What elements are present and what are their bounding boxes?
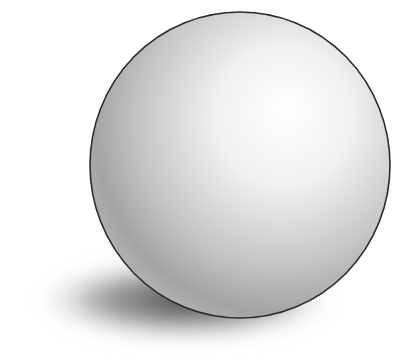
sphere xyxy=(90,12,390,318)
sphere-illustration xyxy=(0,0,415,355)
sphere-drawing xyxy=(0,0,415,355)
